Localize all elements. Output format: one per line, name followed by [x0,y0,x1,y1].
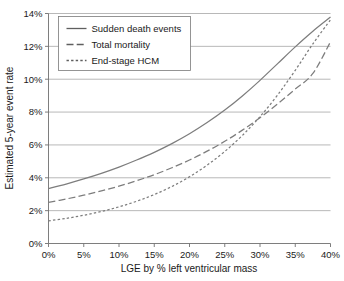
y-tick-label: 8% [29,106,43,117]
y-tick-label: 6% [29,139,43,150]
x-tick-label: 30% [250,249,270,260]
x-tick-label: 5% [77,249,91,260]
legend-label-1: Total mortality [92,39,151,50]
x-tick-label: 40% [321,249,341,260]
x-tick-label: 0% [42,249,56,260]
y-tick-label: 4% [29,172,43,183]
x-tick-label: 10% [109,249,129,260]
y-tick-labels-group: 0%2%4%6%8%10%12%14% [23,8,43,249]
x-tick-labels-group: 0%5%10%15%20%25%30%35%40% [42,249,341,260]
x-tick-label: 35% [286,249,306,260]
legend-label-0: Sudden death events [92,23,182,34]
y-axis-title: Estimated 5-year event rate [4,66,15,189]
chart-svg: 0%2%4%6%8%10%12%14% 0%5%10%15%20%25%30%3… [0,0,344,281]
legend-label-2: End-stage HCM [92,55,160,66]
legend-group: Sudden death eventsTotal mortalityEnd-st… [59,17,191,71]
y-tick-label: 2% [29,205,43,216]
y-tick-label: 12% [23,41,43,52]
y-tick-label: 0% [29,238,43,249]
x-tick-label: 20% [180,249,200,260]
y-tick-label: 10% [23,74,43,85]
chart-figure: 0%2%4%6%8%10%12%14% 0%5%10%15%20%25%30%3… [0,0,344,281]
x-tick-label: 15% [145,249,165,260]
x-axis-title: LGE by % left ventricular mass [121,263,258,274]
y-tick-label: 14% [23,8,43,19]
x-tick-label: 25% [215,249,235,260]
